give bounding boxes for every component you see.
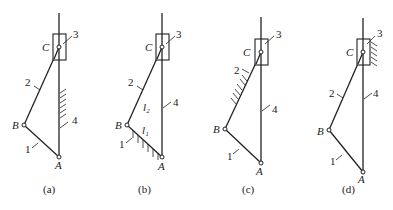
label-3: 3	[73, 28, 79, 40]
pin-c	[57, 45, 61, 49]
ground-hatch	[371, 42, 377, 66]
label-1: 1	[227, 150, 233, 162]
label-1: 1	[119, 138, 125, 150]
panel-c: 3 C 2 4 B 1 A (c)	[213, 17, 282, 196]
pin-b	[22, 123, 26, 127]
label-2: 2	[25, 76, 31, 88]
label-a: A	[157, 160, 165, 172]
label-4: 4	[173, 96, 179, 108]
label-2: 2	[128, 76, 134, 88]
mechanism-figure: 3 C 2 4 B 1 A (a) 3 C 2 l₂	[0, 0, 393, 210]
label-b: B	[213, 123, 220, 135]
label-3: 3	[176, 28, 182, 40]
label-2: 2	[234, 64, 240, 76]
label-l1: l₁	[142, 124, 149, 136]
label-a: A	[357, 173, 365, 185]
label-3: 3	[377, 27, 383, 39]
caption-b: (b)	[138, 183, 151, 196]
panel-b: 3 C 2 l₂ 4 B l₁ 1 A (b)	[115, 13, 182, 196]
label-c: C	[145, 41, 153, 53]
label-c: C	[243, 46, 251, 58]
label-2: 2	[329, 87, 335, 99]
panel-a: 3 C 2 4 B 1 A (a)	[12, 13, 79, 196]
ground-hatch	[60, 89, 66, 118]
label-1: 1	[330, 155, 336, 167]
label-4: 4	[272, 103, 278, 115]
caption-d: (d)	[342, 183, 355, 196]
label-3: 3	[276, 28, 282, 40]
caption-c: (c)	[242, 183, 255, 196]
label-a: A	[54, 159, 62, 171]
label-b: B	[115, 119, 122, 131]
caption-a: (a)	[43, 183, 56, 196]
label-4: 4	[72, 114, 78, 126]
label-l2: l₂	[143, 101, 150, 113]
label-c: C	[42, 41, 50, 53]
label-4: 4	[373, 87, 379, 99]
label-c: C	[346, 46, 354, 58]
panel-d: 3 C 2 4 B 1 A (d)	[317, 18, 383, 196]
label-a: A	[255, 165, 263, 177]
label-1: 1	[25, 143, 31, 155]
label-b: B	[12, 119, 19, 131]
label-b: B	[317, 125, 324, 137]
